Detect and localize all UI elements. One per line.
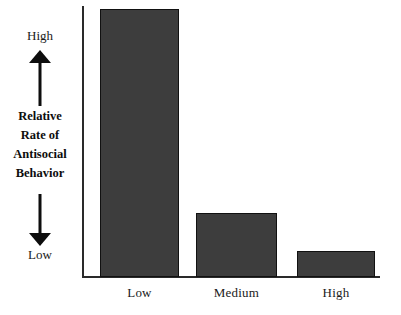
- x-tick-label-low: Low: [100, 285, 179, 301]
- arrow-down-icon: [0, 192, 80, 248]
- bar-medium: [196, 213, 277, 277]
- y-axis-low-label: Low: [0, 247, 80, 263]
- arrow-up-stem: [39, 62, 42, 106]
- x-tick-label-high: High: [297, 285, 375, 301]
- y-axis-high-label: High: [0, 28, 80, 44]
- bar-low: [100, 9, 179, 277]
- y-axis-title-line-1: Relative: [0, 107, 80, 126]
- y-axis-title-line-4: Behavior: [0, 164, 80, 183]
- y-axis-title: Relative Rate of Antisocial Behavior: [0, 107, 80, 183]
- y-axis-title-line-2: Rate of: [0, 126, 80, 145]
- x-tick-label-medium: Medium: [196, 285, 277, 301]
- bar-high: [297, 251, 375, 277]
- arrow-down-head: [29, 233, 51, 246]
- y-axis-line: [82, 6, 84, 278]
- arrow-down-stem: [39, 194, 42, 235]
- bar-chart-figure: High Relative Rate of Antisocial Behavio…: [0, 0, 401, 315]
- y-axis-annotation-column: High Relative Rate of Antisocial Behavio…: [0, 0, 80, 315]
- arrow-up-icon: [0, 50, 80, 106]
- y-axis-title-line-3: Antisocial: [0, 145, 80, 164]
